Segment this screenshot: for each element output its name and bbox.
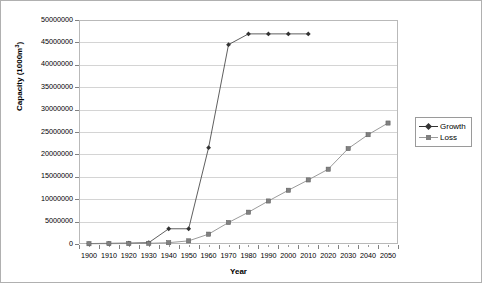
gridline — [80, 132, 397, 133]
x-axis-tick-mark — [79, 245, 80, 249]
y-axis-tick-mark — [75, 110, 79, 111]
y-axis-tick-label: 50000000 — [41, 16, 73, 24]
y-axis-tick-labels: 5000000045000000400000003500000030000000… — [1, 1, 73, 284]
y-axis-tick-label: 25000000 — [41, 128, 73, 136]
y-axis-title: Capacity (1000m3) — [14, 0, 25, 176]
y-axis-tick-mark — [75, 65, 79, 66]
legend-item-growth[interactable]: Growth — [419, 121, 469, 132]
x-axis-minor-tick — [288, 245, 289, 247]
y-axis-tick-label: 20000000 — [41, 150, 73, 158]
x-axis-tick-label: 2050 — [371, 251, 405, 260]
x-axis-tick-mark — [179, 245, 180, 249]
x-axis-minor-tick — [268, 245, 269, 247]
x-axis-minor-tick — [388, 245, 389, 247]
y-axis-tick-mark — [75, 154, 79, 155]
y-axis-tick-mark — [75, 222, 79, 223]
x-axis-tick-mark — [278, 245, 279, 249]
x-axis-minor-tick — [129, 245, 130, 247]
x-axis-tick-mark — [338, 245, 339, 249]
chart-container: 5000000045000000400000003500000030000000… — [0, 0, 482, 283]
y-axis-tick-label: 5000000 — [45, 217, 73, 225]
y-axis-tick-label: 30000000 — [41, 105, 73, 113]
x-axis-minor-tick — [169, 245, 170, 247]
y-axis-title-base: Capacity (1000m — [15, 48, 24, 111]
y-axis-tick-mark — [75, 20, 79, 21]
x-axis-tick-mark — [318, 245, 319, 249]
x-axis-tick-mark — [99, 245, 100, 249]
x-axis-tick-mark — [219, 245, 220, 249]
y-axis-tick-label: 40000000 — [41, 60, 73, 68]
legend-label-growth: Growth — [440, 122, 466, 131]
plot-area — [79, 20, 398, 244]
x-axis-minor-tick — [348, 245, 349, 247]
y-axis-tick-label: 10000000 — [41, 195, 73, 203]
x-axis-minor-tick — [89, 245, 90, 247]
x-axis-title: Year — [79, 267, 398, 276]
x-axis-minor-tick — [328, 245, 329, 247]
legend-label-loss: Loss — [440, 133, 457, 142]
x-axis-tick-mark — [239, 245, 240, 249]
gridline — [80, 87, 397, 88]
loss-series-marker-icon — [419, 133, 438, 142]
x-axis-minor-tick — [248, 245, 249, 247]
gridline — [80, 65, 397, 66]
growth-series-marker-icon — [419, 122, 438, 131]
x-axis-tick-mark — [159, 245, 160, 249]
y-axis-tick-mark — [75, 87, 79, 88]
legend-item-loss[interactable]: Loss — [419, 132, 469, 143]
x-axis-minor-tick — [368, 245, 369, 247]
y-axis-tick-mark — [75, 132, 79, 133]
x-axis-tick-mark — [199, 245, 200, 249]
y-axis-tick-label: 35000000 — [41, 83, 73, 91]
x-axis-tick-mark — [358, 245, 359, 249]
x-axis-minor-tick — [189, 245, 190, 247]
y-axis-tick-label: 0 — [69, 240, 73, 248]
gridline — [80, 42, 397, 43]
x-axis-tick-mark — [139, 245, 140, 249]
x-axis-minor-tick — [308, 245, 309, 247]
y-axis-tick-mark — [75, 42, 79, 43]
x-axis-minor-tick — [209, 245, 210, 247]
y-axis-tick-label: 45000000 — [41, 38, 73, 46]
x-axis-tick-mark — [298, 245, 299, 249]
y-axis-tick-mark — [75, 244, 79, 245]
y-axis-title-tail: ) — [15, 42, 24, 45]
x-axis-minor-tick — [229, 245, 230, 247]
y-axis-tick-label: 15000000 — [41, 172, 73, 180]
y-axis-title-exponent: 3 — [14, 44, 20, 47]
x-axis-minor-tick — [149, 245, 150, 247]
x-axis-tick-mark — [119, 245, 120, 249]
x-axis-tick-mark — [398, 245, 399, 249]
x-axis-tick-mark — [258, 245, 259, 249]
x-axis-minor-tick — [109, 245, 110, 247]
gridline — [80, 222, 397, 223]
gridline — [80, 177, 397, 178]
gridline — [80, 154, 397, 155]
x-axis-tick-mark — [378, 245, 379, 249]
gridline — [80, 199, 397, 200]
gridline — [80, 110, 397, 111]
y-axis-tick-mark — [75, 177, 79, 178]
chart-legend: Growth Loss — [415, 117, 472, 147]
y-axis-tick-mark — [75, 199, 79, 200]
